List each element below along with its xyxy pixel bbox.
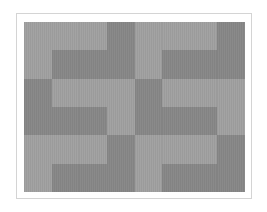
- light-tile: [135, 164, 163, 192]
- light-tile: [190, 79, 218, 107]
- dark-tile: [135, 79, 163, 107]
- light-tile: [52, 135, 80, 163]
- light-tile: [24, 22, 52, 50]
- light-tile: [24, 135, 52, 163]
- dark-tile: [52, 50, 80, 78]
- light-tile: [135, 22, 163, 50]
- light-tile: [107, 107, 135, 135]
- dark-tile: [217, 135, 245, 163]
- dark-tile: [190, 50, 218, 78]
- light-tile: [24, 50, 52, 78]
- light-tile: [162, 22, 190, 50]
- light-tile: [107, 79, 135, 107]
- light-tile: [24, 164, 52, 192]
- dark-tile: [162, 107, 190, 135]
- light-tile: [162, 135, 190, 163]
- light-tile: [79, 22, 107, 50]
- dark-tile: [190, 107, 218, 135]
- light-tile: [217, 79, 245, 107]
- dark-tile: [107, 164, 135, 192]
- light-tile: [190, 135, 218, 163]
- light-tile: [217, 107, 245, 135]
- dark-tile: [162, 164, 190, 192]
- dark-tile: [79, 164, 107, 192]
- dark-tile: [52, 107, 80, 135]
- light-tile: [162, 79, 190, 107]
- dark-tile: [79, 50, 107, 78]
- light-tile: [135, 50, 163, 78]
- light-tile: [79, 79, 107, 107]
- dark-tile: [162, 50, 190, 78]
- dark-tile: [24, 107, 52, 135]
- dark-tile: [24, 79, 52, 107]
- dark-tile: [135, 107, 163, 135]
- dark-tile: [190, 164, 218, 192]
- dark-tile: [107, 50, 135, 78]
- dark-tile: [217, 164, 245, 192]
- light-tile: [190, 22, 218, 50]
- tile-pattern-grid: [24, 22, 245, 192]
- dark-tile: [52, 164, 80, 192]
- dark-tile: [217, 50, 245, 78]
- light-tile: [79, 135, 107, 163]
- dark-tile: [79, 107, 107, 135]
- light-tile: [52, 22, 80, 50]
- dark-tile: [217, 22, 245, 50]
- light-tile: [135, 135, 163, 163]
- light-tile: [52, 79, 80, 107]
- dark-tile: [107, 22, 135, 50]
- dark-tile: [107, 135, 135, 163]
